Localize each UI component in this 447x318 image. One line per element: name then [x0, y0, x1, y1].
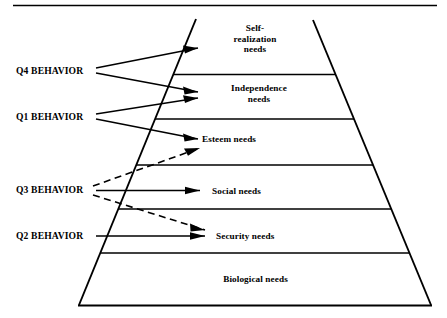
behavior-label-q3: Q3 BEHAVIOR: [16, 184, 83, 195]
behavior-label-q4: Q4 BEHAVIOR: [16, 65, 83, 76]
tier-label-biological: Biological needs: [178, 274, 333, 285]
figure-container: Self- realization needs Independence nee…: [0, 0, 447, 318]
leader-q1-to-independence: [96, 98, 198, 114]
arrowhead-q1-esteem: [183, 134, 198, 142]
leader-q3-to-security-dashed: [93, 195, 205, 230]
tier-label-security: Security needs: [216, 231, 336, 242]
arrowhead-q3-security: [190, 224, 205, 232]
arrowhead-q3-social: [185, 187, 200, 194]
tier-label-self-realization: Self- realization needs: [200, 23, 310, 55]
leader-q4-to-self-realization: [96, 48, 198, 68]
tier-label-social: Social needs: [212, 186, 322, 197]
tier-label-esteem: Esteem needs: [202, 134, 312, 145]
arrowhead-q2-security: [190, 232, 205, 240]
arrowhead-q3-esteem: [184, 148, 200, 156]
behavior-label-q1: Q1 BEHAVIOR: [16, 111, 83, 122]
arrowhead-q4-self-realization: [183, 46, 198, 54]
arrowhead-q4-independence: [183, 87, 198, 95]
leader-q1-to-esteem: [96, 119, 198, 139]
tier-label-independence: Independence needs: [200, 83, 318, 104]
pyramid-left-edge: [79, 19, 196, 305]
behavior-label-q2: Q2 BEHAVIOR: [16, 230, 83, 241]
leader-q4-to-independence: [96, 73, 198, 92]
leader-q3-to-esteem-dashed: [93, 148, 200, 186]
pyramid-right-edge: [313, 20, 431, 305]
